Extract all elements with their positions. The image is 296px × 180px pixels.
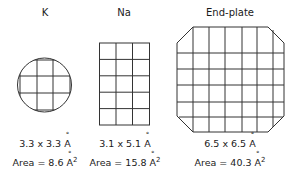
endplate-pore-octagon	[177, 27, 284, 132]
k-pore-circle	[10, 50, 80, 120]
label-endplate: 6.5 x 6.5 A Area = 40.3 A2	[180, 135, 280, 171]
label-na: 3.1 x 5.1 A Area = 15.8 A2	[75, 135, 175, 171]
na-pore-rect	[100, 43, 150, 125]
